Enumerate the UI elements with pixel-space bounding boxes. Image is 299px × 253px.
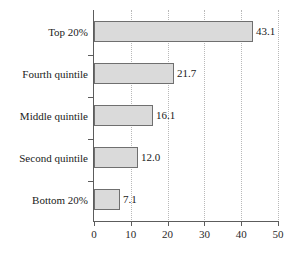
x-axis-tick-40 xyxy=(241,222,242,226)
y-axis-tick xyxy=(88,97,93,98)
bar xyxy=(94,63,174,84)
y-axis-tick xyxy=(88,181,93,182)
bar-value-label: 43.1 xyxy=(256,21,275,42)
y-axis-tick xyxy=(88,139,93,140)
bar-value-label: 21.7 xyxy=(177,63,196,84)
x-axis-tick-30 xyxy=(204,222,205,226)
bar xyxy=(94,147,138,168)
y-axis-tick xyxy=(88,55,93,56)
bar-chart: 0 10 20 30 40 50 Top 20% 43.1 Fourth qui… xyxy=(0,0,299,253)
bar xyxy=(94,21,253,42)
category-label: Fourth quintile xyxy=(0,63,88,85)
x-axis-label-40: 40 xyxy=(221,228,261,241)
category-label: Bottom 20% xyxy=(0,189,88,211)
bar-row: Second quintile 12.0 xyxy=(0,147,299,169)
category-label: Middle quintile xyxy=(0,105,88,127)
bar xyxy=(94,189,120,210)
bar-row: Bottom 20% 7.1 xyxy=(0,189,299,211)
x-axis-label-20: 20 xyxy=(148,228,188,241)
x-axis-tick-10 xyxy=(131,222,132,226)
x-axis-label-0: 0 xyxy=(74,228,114,241)
bar-row: Middle quintile 16.1 xyxy=(0,105,299,127)
bar-row: Top 20% 43.1 xyxy=(0,21,299,43)
x-axis-tick-20 xyxy=(168,222,169,226)
category-label: Top 20% xyxy=(0,21,88,43)
bar xyxy=(94,105,153,126)
x-axis-line xyxy=(93,221,279,222)
bar-row: Fourth quintile 21.7 xyxy=(0,63,299,85)
bar-value-label: 7.1 xyxy=(123,189,137,210)
bar-value-label: 12.0 xyxy=(141,147,160,168)
x-axis-label-50: 50 xyxy=(258,228,298,241)
x-axis-tick-50 xyxy=(278,222,279,226)
x-axis-label-10: 10 xyxy=(111,228,151,241)
bar-value-label: 16.1 xyxy=(156,105,175,126)
x-axis-tick-0 xyxy=(94,222,95,226)
x-axis-label-30: 30 xyxy=(184,228,224,241)
category-label: Second quintile xyxy=(0,147,88,169)
